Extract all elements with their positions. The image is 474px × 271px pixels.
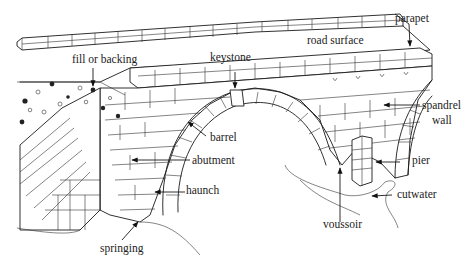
label-voussoir: voussoir xyxy=(323,218,362,230)
label-keystone: keystone xyxy=(210,51,251,64)
label-pier: pier xyxy=(412,154,430,167)
pier xyxy=(352,136,372,186)
abutment-wingwall xyxy=(20,88,100,230)
label-spandrel: spandrel xyxy=(422,99,461,112)
label-springing: springing xyxy=(100,242,144,255)
label-road-surface: road surface xyxy=(307,34,364,46)
label-abutment: abutment xyxy=(192,154,236,166)
label-cutwater: cutwater xyxy=(397,188,437,200)
label-barrel: barrel xyxy=(210,131,237,143)
springing-leader xyxy=(122,222,138,240)
label-wall: wall xyxy=(432,114,452,126)
parapet-leader xyxy=(409,24,410,46)
cutwater-leader xyxy=(372,195,392,196)
label-parapet: parapet xyxy=(395,12,430,25)
label-fill-or-backing: fill or backing xyxy=(72,53,137,66)
label-haunch: haunch xyxy=(186,184,219,196)
arch-bridge-diagram: parapet road surface keystone fill or ba… xyxy=(0,0,474,271)
